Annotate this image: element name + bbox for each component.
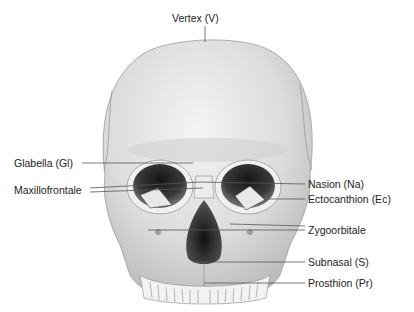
left-orbit (127, 160, 193, 214)
label-vertex: Vertex (V) (172, 12, 219, 24)
label-zygoorbitale: Zygoorbitale (308, 224, 366, 236)
label-subnasal: Subnasal (S) (308, 256, 369, 268)
label-nasion: Nasion (Na) (308, 178, 364, 190)
right-orbit (215, 160, 281, 214)
label-glabella: Glabella (Gl) (14, 157, 73, 169)
label-maxillofrontale: Maxillofrontale (14, 184, 82, 196)
label-prosthion: Prosthion (Pr) (308, 277, 373, 289)
label-ectocanthion: Ectocanthion (Ec) (308, 193, 391, 205)
